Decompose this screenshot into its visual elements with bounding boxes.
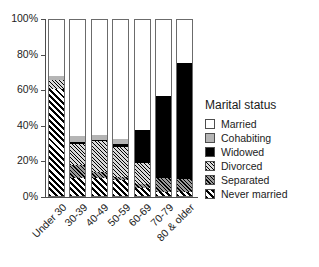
bar-under-30[interactable] [48, 19, 65, 197]
plot-area [46, 19, 198, 197]
legend-item-never-married[interactable]: Never married [205, 187, 319, 201]
legend-label: Divorced [221, 160, 262, 172]
legend-swatch-divorced-icon [205, 161, 215, 171]
x-axis-label-40-49: 40-49 [83, 201, 110, 228]
bar-segment-cohabiting[interactable] [49, 76, 64, 80]
y-axis-tick-label: 0% [23, 190, 38, 202]
y-axis-tick-mark [41, 19, 45, 20]
bar-segment-divorced[interactable] [135, 163, 150, 184]
bar-segment-separated[interactable] [70, 165, 85, 178]
bar-segment-never-married[interactable] [156, 192, 171, 196]
legend-label: Separated [221, 174, 269, 186]
x-axis-label-30-39: 30-39 [62, 201, 89, 228]
y-axis-tick-mark [41, 90, 45, 91]
bar-segment-never-married[interactable] [49, 89, 64, 196]
x-axis-line [45, 197, 198, 198]
legend-item-married[interactable]: Married [205, 117, 319, 131]
y-axis-tick-mark [41, 161, 45, 162]
bar-segment-married[interactable] [92, 19, 107, 135]
bar-segment-divorced[interactable] [70, 144, 85, 164]
legend-item-divorced[interactable]: Divorced [205, 159, 319, 173]
legend-swatch-separated-icon [205, 175, 215, 185]
bar-segment-widowed[interactable] [92, 140, 107, 141]
bar-segment-never-married[interactable] [70, 178, 85, 196]
legend-swatch-never-married-icon [205, 189, 215, 199]
legend-item-separated[interactable]: Separated [205, 173, 319, 187]
bar-60-69[interactable] [134, 19, 151, 197]
bar-segment-married[interactable] [70, 19, 85, 135]
bar-30-39[interactable] [69, 19, 86, 197]
bar-segment-married[interactable] [49, 19, 64, 76]
legend-title: Marital status [205, 98, 319, 112]
legend-label: Cohabiting [221, 132, 271, 144]
bar-segment-widowed[interactable] [177, 63, 192, 179]
legend-item-cohabiting[interactable]: Cohabiting [205, 131, 319, 145]
legend-label: Married [221, 118, 257, 130]
legend-swatch-widowed-icon [205, 147, 215, 157]
bar-segment-separated[interactable] [177, 179, 192, 192]
x-axis-label-60-69: 60-69 [126, 201, 153, 228]
bar-segment-widowed[interactable] [135, 130, 150, 163]
bar-segment-married[interactable] [156, 19, 171, 96]
bar-segment-separated[interactable] [92, 172, 107, 178]
chart-legend: Marital status MarriedCohabitingWidowedD… [205, 98, 319, 201]
y-axis-tick-label: 20% [17, 154, 38, 166]
legend-item-list: MarriedCohabitingWidowedDivorcedSeparate… [205, 117, 319, 201]
bar-segment-married[interactable] [135, 19, 150, 130]
legend-label: Widowed [221, 146, 264, 158]
bar-40-49[interactable] [91, 19, 108, 197]
bar-segment-widowed[interactable] [70, 142, 85, 145]
bar-segment-cohabiting[interactable] [70, 136, 85, 142]
legend-swatch-married-icon [205, 119, 215, 129]
bar-70-79[interactable] [155, 19, 172, 197]
legend-item-widowed[interactable]: Widowed [205, 145, 319, 159]
bar-segment-never-married[interactable] [113, 180, 128, 196]
bar-segment-cohabiting[interactable] [92, 135, 107, 140]
y-axis-tick-mark [41, 197, 45, 198]
y-axis-tick-label: 60% [17, 83, 38, 95]
y-axis-tick-label: 80% [17, 48, 38, 60]
bar-segment-separated[interactable] [156, 178, 171, 191]
chart-figure: 0%20%40%60%80%100% Under 3030-3940-4950-… [0, 0, 319, 267]
bar-segment-separated[interactable] [113, 177, 128, 180]
y-axis-tick-mark [41, 126, 45, 127]
y-axis-tick-mark [41, 55, 45, 56]
legend-label: Never married [221, 188, 288, 200]
legend-swatch-cohabiting-icon [205, 133, 215, 143]
y-axis-tick-label: 40% [17, 119, 38, 131]
x-axis-label-50-59: 50-59 [105, 201, 132, 228]
bar-segment-divorced[interactable] [49, 80, 64, 89]
bar-segment-married[interactable] [177, 19, 192, 63]
bar-80-older[interactable] [176, 19, 193, 197]
bar-segment-widowed[interactable] [156, 96, 171, 178]
bar-segment-divorced[interactable] [113, 147, 128, 177]
bar-50-59[interactable] [112, 19, 129, 197]
bar-segment-widowed[interactable] [113, 144, 128, 147]
y-axis-tick-label: 100% [11, 12, 38, 24]
bar-segment-never-married[interactable] [177, 192, 192, 196]
bar-segment-never-married[interactable] [92, 178, 107, 196]
bar-segment-cohabiting[interactable] [113, 139, 128, 144]
bar-segment-separated[interactable] [135, 184, 150, 188]
bar-segment-never-married[interactable] [135, 188, 150, 196]
bar-segment-married[interactable] [113, 19, 128, 139]
bar-segment-divorced[interactable] [92, 141, 107, 172]
